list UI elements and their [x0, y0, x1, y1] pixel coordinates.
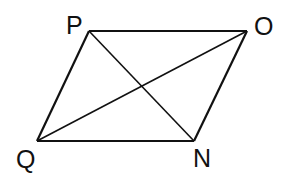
- side-QP: [37, 31, 89, 141]
- diagonal-QO: [37, 31, 247, 141]
- vertex-label-o: O: [254, 12, 273, 40]
- side-ON: [194, 31, 247, 141]
- vertex-label-q: Q: [16, 145, 35, 173]
- vertex-label-n: N: [193, 144, 211, 172]
- parallelogram-diagram: P O N Q: [0, 0, 293, 176]
- vertex-label-p: P: [66, 11, 83, 39]
